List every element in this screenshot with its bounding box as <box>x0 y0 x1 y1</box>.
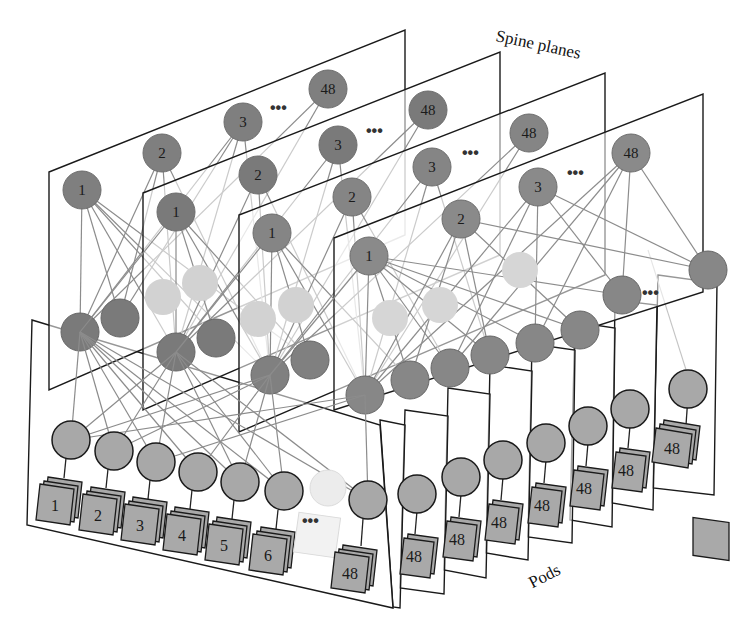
faint-node <box>278 287 314 323</box>
leaf-node <box>471 336 509 374</box>
spine-node-label: 3 <box>428 159 436 175</box>
tor-node-pod3 <box>398 475 436 513</box>
tor-node-4 <box>179 453 217 491</box>
tor-node-2 <box>95 432 133 470</box>
tor-node-pod4 <box>442 458 480 496</box>
server-stack-1: 1 <box>36 477 82 525</box>
leaf-node <box>291 341 329 379</box>
server-stack-4: 4 <box>163 507 209 555</box>
tor-node-5 <box>221 463 259 501</box>
leaf-node <box>431 349 469 387</box>
server-label: 2 <box>94 507 102 524</box>
tor-node-3 <box>137 443 175 481</box>
faint-node <box>372 300 408 336</box>
spine-node-label: 2 <box>158 145 166 161</box>
leaf-node <box>561 311 599 349</box>
tor-node-pod5 <box>484 441 522 479</box>
server-label-pod5: 48 <box>491 514 507 531</box>
faint-tor-node <box>310 470 346 506</box>
spine-node-label: 1 <box>78 182 86 198</box>
spine-node-label: 2 <box>457 211 465 227</box>
leaf-node <box>101 299 139 337</box>
leaf-node <box>391 361 429 399</box>
server-stack-3: 3 <box>121 497 167 545</box>
tor-node-pod6 <box>527 424 565 462</box>
faint-node <box>145 279 181 315</box>
spine-node-label: 2 <box>348 189 356 205</box>
server-label-pod3: 48 <box>406 548 422 565</box>
server-label: 1 <box>51 497 59 514</box>
spine-node-label: 3 <box>534 179 542 195</box>
ellipsis: ••• <box>302 512 319 529</box>
server-label: 3 <box>136 517 144 534</box>
tor-node-pod8 <box>611 390 649 428</box>
spine-node-label: 3 <box>239 114 247 130</box>
spine-node-label: 2 <box>254 167 262 183</box>
faint-node <box>422 287 458 323</box>
leaf-node <box>197 319 235 357</box>
faint-node <box>240 301 276 337</box>
spine-node-label: 1 <box>268 225 276 241</box>
spine-node-label: 48 <box>624 145 639 161</box>
topology-diagram: 48 48 48 48 48 48 48 <box>0 0 740 637</box>
server-stack-48: 48 <box>331 545 377 593</box>
spine-node-label: 48 <box>522 125 537 141</box>
ellipsis: ••• <box>366 122 383 139</box>
spine-node-label: 48 <box>321 81 336 97</box>
tor-node-6 <box>265 472 303 510</box>
server-label-pod6: 48 <box>534 497 550 514</box>
server-label-pod4: 48 <box>449 531 465 548</box>
leaf-node <box>516 324 554 362</box>
spine-node-label: 1 <box>365 248 373 264</box>
spine-node-label: 48 <box>421 102 436 118</box>
ellipsis: ••• <box>567 164 584 181</box>
spine-node-label: 3 <box>334 137 342 153</box>
server-stack-2: 2 <box>79 487 125 535</box>
server-label-pod8: 48 <box>618 462 634 479</box>
server-stack-pod9: 48 <box>652 420 700 468</box>
server-label: 5 <box>220 537 228 554</box>
server-stack-6: 6 <box>249 527 295 575</box>
faint-node <box>182 265 218 301</box>
tor-node-48 <box>349 481 387 519</box>
server-stack-5: 5 <box>205 517 251 565</box>
ellipsis: ••• <box>642 284 659 301</box>
faint-node <box>502 252 538 288</box>
ellipsis: ••• <box>462 144 479 161</box>
tor-node-1 <box>52 421 90 459</box>
tor-node-pod9 <box>669 370 707 408</box>
server-label-pod7: 48 <box>576 480 592 497</box>
server-label: 6 <box>264 547 272 564</box>
leaf-node <box>603 276 641 314</box>
tor-node-pod7 <box>569 407 607 445</box>
leaf-node <box>689 251 727 289</box>
ellipsis: ••• <box>270 99 287 116</box>
server-label: 48 <box>342 565 358 582</box>
spine-node-label: 1 <box>172 204 180 220</box>
server-label: 4 <box>178 527 186 544</box>
server-label-pod9: 48 <box>664 440 680 457</box>
